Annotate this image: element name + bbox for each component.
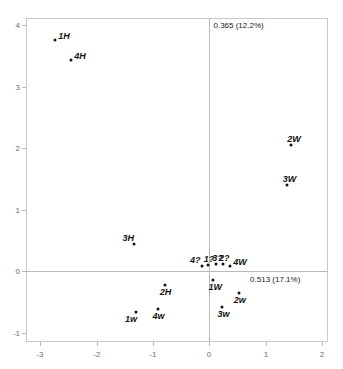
x-tick-label: 2 [320,350,324,359]
x-tick [209,342,210,346]
y-tick-label: 2 [2,144,20,153]
x-axis-label: 0.513 (17.1%) [250,275,300,284]
y-tick-label: -1 [2,329,20,338]
y-tick [22,271,26,272]
x-tick [40,342,41,346]
data-point-label: 1w [125,314,137,324]
data-point-label: 2W [287,134,301,144]
y-tick-label: 0 [2,267,20,276]
x-tick-label: -1 [149,350,156,359]
data-point-label: 2H [160,287,172,297]
data-point [201,264,204,267]
data-point-label: 4? [190,255,201,265]
data-point-label: 3W [283,174,297,184]
x-tick [266,342,267,346]
data-point-label: 3H [122,233,134,243]
y-tick-label: 1 [2,206,20,215]
vertical-zero-axis [209,18,210,342]
x-tick [322,342,323,346]
y-tick-label: 3 [2,83,20,92]
data-point-label: 3w [217,309,229,319]
data-point-label: 4w [153,311,165,321]
y-tick [22,210,26,211]
data-point-label: 4H [74,51,86,61]
scatter-plot: -3-2-1012 43210-1 0.365 (12.2%) 0.513 (1… [0,0,343,369]
x-tick [97,342,98,346]
y-tick [22,25,26,26]
data-point [229,264,232,267]
data-point-label: 1W [208,282,222,292]
y-axis-label: 0.365 (12.2%) [213,21,263,30]
horizontal-zero-axis [26,271,328,272]
data-point-label: 4W [233,257,247,267]
y-tick [22,148,26,149]
y-tick [22,87,26,88]
data-point-label: 1H [58,31,70,41]
y-tick [22,333,26,334]
data-point [70,59,73,62]
x-tick-label: 0 [207,350,211,359]
x-tick-label: 1 [264,350,268,359]
data-point-label: 2w [234,295,246,305]
data-point [54,39,57,42]
x-tick-label: -3 [36,350,43,359]
y-tick-label: 4 [2,21,20,30]
data-point-label: 2? [219,253,230,263]
x-tick [153,342,154,346]
x-tick-label: -2 [93,350,100,359]
